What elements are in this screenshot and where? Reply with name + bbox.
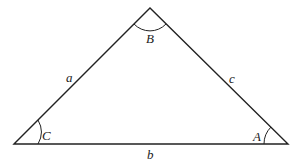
side-label-b: b <box>147 147 154 162</box>
triangle-diagram: B C A a c b <box>0 0 303 163</box>
angle-arc-C <box>38 120 41 144</box>
angle-label-A: A <box>252 129 261 144</box>
triangle-outline <box>14 8 288 144</box>
side-label-a: a <box>66 70 73 85</box>
angle-arc-A <box>264 127 271 144</box>
side-label-c: c <box>229 71 235 86</box>
angle-label-B: B <box>146 31 154 46</box>
angle-label-C: C <box>42 128 51 143</box>
angle-arc-B <box>134 24 166 31</box>
